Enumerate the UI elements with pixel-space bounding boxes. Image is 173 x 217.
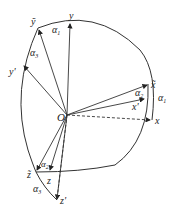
label-y-prime: y': [8, 66, 16, 77]
label-x: x: [154, 115, 160, 126]
label-alpha2-bottom: α2: [41, 159, 49, 170]
label-alpha3-bottom: α3: [33, 183, 41, 195]
label-alpha2-right: α2: [135, 87, 143, 99]
origin-label: O: [57, 111, 65, 123]
axis-y-prime: [24, 66, 67, 115]
label-y: y: [68, 10, 74, 21]
label-y-tilde: ỹ: [30, 16, 36, 27]
axis-y-tilde: [39, 30, 67, 115]
label-z: z: [46, 175, 51, 186]
label-x-prime: x': [131, 101, 139, 112]
label-z-tilde: z̃: [26, 169, 31, 180]
label-x-tilde: x̃: [150, 79, 156, 90]
axis-z: [50, 115, 67, 170]
axis-x: [67, 115, 150, 120]
label-z-prime: z': [59, 195, 67, 206]
label-alpha1-top: α1: [52, 24, 60, 36]
label-alpha3-left: α3: [30, 47, 38, 59]
axis-y: [67, 24, 70, 115]
axis-z-dashed: [57, 115, 67, 199]
label-alpha1-right: α1: [158, 92, 166, 104]
rotation-diagram: O y ỹ y' x̃ x' x z̃ z z' α1 α1 α3 α2 α2 …: [0, 0, 173, 217]
